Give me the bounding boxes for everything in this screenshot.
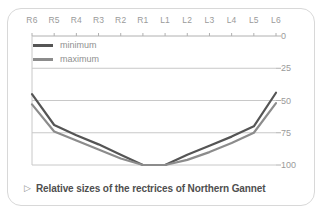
legend-label-minimum: minimum [60, 40, 97, 50]
caption-text: Relative sizes of the rectrices of North… [36, 183, 266, 194]
legend-item-maximum: maximum [33, 53, 153, 65]
legend-label-maximum: maximum [60, 54, 99, 64]
line-chart [8, 9, 316, 176]
legend-swatch-maximum [33, 58, 53, 61]
caption-bar: ▷ Relative sizes of the rectrices of Nor… [8, 183, 316, 194]
y-tick-label-25: 25 [281, 63, 291, 73]
gridlines [32, 68, 276, 165]
caption-marker-icon: ▷ [24, 184, 31, 193]
legend-item-minimum: minimum [33, 39, 153, 51]
series-line-minimum [32, 93, 276, 165]
y-tick-label-100: 100 [281, 160, 296, 170]
y-tick-label-0: 0 [281, 31, 286, 41]
data-series-group [32, 93, 276, 165]
y-tick-label-75: 75 [281, 128, 291, 138]
legend-swatch-minimum [33, 44, 53, 47]
y-tick-label-50: 50 [281, 96, 291, 106]
plot-area: R6R5R4R3R2R1L1L2L3L4L5L6 0255075100 mini… [8, 9, 316, 176]
figure-card: R6R5R4R3R2R1L1L2L3L4L5L6 0255075100 mini… [7, 8, 315, 206]
chart-legend: minimum maximum [33, 39, 153, 67]
